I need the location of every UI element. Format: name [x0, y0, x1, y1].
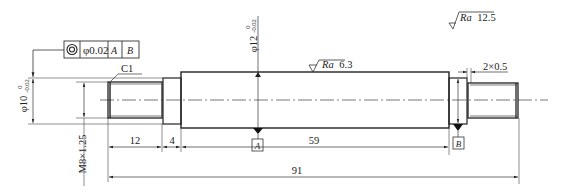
chamfer-callout: C1 [110, 63, 142, 82]
dim-thread: M8×1.25 [76, 82, 108, 186]
dim-thread-length: 12 [130, 135, 141, 146]
undercut-label: 2×0.5 [483, 61, 507, 72]
concentricity-icon [67, 45, 77, 55]
left-diameter-nominal: φ10 [18, 96, 29, 113]
main-diameter-lower: -0.02 [250, 19, 257, 33]
datum-b: B [453, 137, 464, 149]
left-diameter-lower: -0.02 [23, 79, 30, 93]
dim-neck-length: 4 [169, 135, 175, 146]
datum-b-label: B [456, 139, 462, 149]
left-diameter-upper: 0 [16, 85, 23, 88]
thread-label: M8×1.25 [77, 135, 88, 174]
datum-a-label: A [254, 141, 261, 151]
svg-text:Ra 12.5: Ra 12.5 [459, 12, 496, 23]
svg-text:Ra 6.3: Ra 6.3 [321, 59, 352, 70]
tolerance-value: φ0.02 [83, 44, 109, 56]
roughness-main: Ra 6.3 [309, 59, 352, 72]
tolerance-datum-b: B [127, 45, 133, 56]
dim-main-diameter: φ12 0 -0.02 [244, 16, 263, 139]
tolerance-datum-a: A [110, 45, 118, 56]
roughness-main-value: 6.3 [339, 59, 352, 70]
shaft-drawing: φ0.02 A B φ10 0 -0.02 M8×1.25 C1 φ12 0 -… [0, 0, 564, 193]
dim-right-diameter [453, 79, 463, 137]
roughness-main-prefix: Ra [321, 59, 334, 70]
dim-undercut: 2×0.5 [458, 61, 508, 83]
svg-text:φ10: φ10 [18, 96, 29, 113]
chamfer-label: C1 [121, 63, 133, 74]
roughness-general-prefix: Ra [459, 12, 472, 23]
dim-chain: 12 4 59 [109, 135, 448, 147]
dim-total-length: 91 [292, 165, 303, 176]
dim-total: 91 [109, 165, 518, 177]
roughness-general-value: 12.5 [477, 12, 495, 23]
datum-a: A [252, 139, 263, 151]
dim-left-diameter: φ10 0 -0.02 [16, 78, 163, 124]
roughness-general: Ra 12.5 [449, 12, 496, 29]
dim-main-length: 59 [309, 135, 320, 146]
main-diameter-nominal: φ12 [248, 36, 259, 53]
